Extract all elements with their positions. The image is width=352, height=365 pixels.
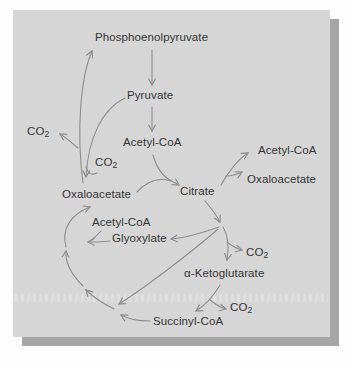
arrow-isocitrate-to-glyoxylate [171,227,219,239]
label-co2-akg: CO2 [230,301,252,315]
arrow-citrate-to-isocitrate [205,201,220,222]
label-co2-left: CO2 [27,125,49,139]
arrow-acetylcoa-into-glyoxylate [90,231,101,241]
label-acetyl-coa-glyoxylate: Acetyl-CoA [92,216,151,229]
arrow-citrate-to-acetylcoa-export [221,153,248,185]
arrow-co2-from-akg [209,299,226,309]
label-phosphoenolpyruvate: Phosphoenolpyruvate [95,31,208,44]
arrow-cycle-left-arc-3 [65,207,90,247]
co2-subscript: 2 [263,250,268,260]
co2-text: CO [27,125,44,137]
label-oxaloacetate-export: Oxaloacetate [247,173,316,186]
arrow-oxaloacetate-to-pep [80,51,92,183]
arrow-co2-from-isocitrate [227,242,242,250]
label-co2-carboxylation: CO2 [95,156,117,170]
arrow-oxaloacetate-to-citrate [137,180,179,192]
arrow-glyoxylate-to-malate [88,241,110,242]
arrow-akg-to-succinylcoa [196,285,220,311]
label-acetyl-coa: Acetyl-CoA [123,136,182,149]
label-pyruvate: Pyruvate [127,89,173,102]
co2-text: CO [246,246,263,258]
co2-subscript: 2 [44,129,49,139]
label-alpha-ketoglutarate: α-Ketoglutarate [184,267,264,280]
label-succinyl-coa: Succinyl-CoA [153,315,223,328]
co2-subscript: 2 [247,305,252,315]
figure-stage: Phosphoenolpyruvate Pyruvate Acetyl-CoA … [0,0,352,365]
label-citrate: Citrate [180,185,215,198]
label-oxaloacetate: Oxaloacetate [62,188,131,201]
arrow-co2-release-left [60,134,78,148]
label-co2-isocitrate: CO2 [246,246,268,260]
label-acetyl-coa-export: Acetyl-CoA [258,144,317,157]
arrow-isocitrate-to-akg [223,227,228,260]
co2-text: CO [230,301,247,313]
arrow-acetylcoa-to-citrate [153,155,172,181]
label-glyoxylate: Glyoxylate [112,232,167,245]
arrow-cycle-left-arc-2 [66,251,83,286]
arrow-succinylcoa-to-cycle [121,315,150,321]
arrow-cycle-left-arc-1 [86,290,114,309]
co2-subscript: 2 [112,160,117,170]
co2-text: CO [95,156,112,168]
